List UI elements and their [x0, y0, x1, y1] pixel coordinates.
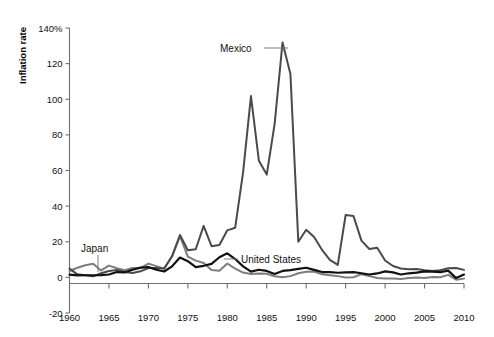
- x-tick-label: 1995: [335, 312, 356, 323]
- japan-label: Japan: [81, 243, 108, 254]
- y-tick-label: 120: [47, 58, 63, 69]
- x-tick-labels: 1960196519701975198019851990199520002005…: [59, 312, 475, 323]
- y-tick-label: 20: [52, 236, 63, 247]
- y-tick-label: 40: [52, 201, 63, 212]
- chart-page: 140%120100806040200-20 19601965197019751…: [0, 0, 494, 337]
- x-tick-label: 1990: [296, 312, 317, 323]
- x-tick-label: 1960: [59, 312, 80, 323]
- x-tick-label: 2005: [414, 312, 435, 323]
- y-axis-title: Inflation rate: [17, 27, 28, 84]
- data-series-group: [70, 43, 465, 280]
- inflation-rate-line-chart: 140%120100806040200-20 19601965197019751…: [0, 0, 494, 337]
- y-tick-label: 140%: [38, 23, 63, 34]
- y-tick-labels: 140%120100806040200-20: [38, 23, 63, 319]
- x-tick-label: 2010: [453, 312, 474, 323]
- united-states-annotation: United States: [224, 254, 301, 265]
- y-tick-label: 100: [47, 94, 63, 105]
- x-tick-label: 1980: [217, 312, 238, 323]
- x-tick-label: 1970: [138, 312, 159, 323]
- x-axis-group: 1960196519701975198019851990199520002005…: [59, 284, 475, 324]
- x-tick-label: 1965: [98, 312, 119, 323]
- mexico-annotation: Mexico: [220, 43, 288, 54]
- y-tick-label: 0: [57, 272, 62, 283]
- x-tick-label: 1985: [256, 312, 277, 323]
- mexico-label: Mexico: [220, 43, 252, 54]
- y-axis-group: 140%120100806040200-20: [38, 23, 69, 319]
- x-tick-label: 2000: [375, 312, 396, 323]
- x-tick-marks: [70, 284, 465, 289]
- x-tick-label: 1975: [177, 312, 198, 323]
- y-tick-label: 60: [52, 165, 63, 176]
- y-tick-label: 80: [52, 129, 63, 140]
- series-line-mexico: [70, 43, 465, 277]
- united-states-label: United States: [241, 254, 301, 265]
